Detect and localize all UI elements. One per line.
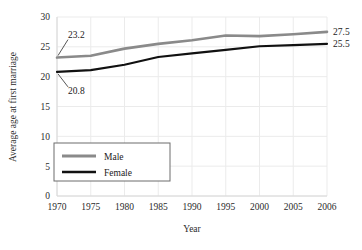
y-tick-label: 10 (41, 132, 51, 142)
x-axis-tick-labels: 197019751980198519901995200020052006 (48, 202, 337, 212)
y-tick-label: 20 (41, 72, 51, 82)
chart-legend[interactable]: MaleFemale (54, 143, 170, 181)
y-tick-label: 15 (41, 102, 51, 112)
x-tick-label: 2005 (284, 202, 303, 212)
male-end-label: 27.5 (333, 27, 350, 37)
x-tick-label: 1985 (149, 202, 168, 212)
legend-label-female: Female (104, 168, 132, 178)
y-tick-label: 0 (45, 191, 50, 201)
x-tick-label: 1975 (81, 202, 100, 212)
female-end-label: 25.5 (333, 39, 350, 49)
y-axis-title: Average age at first marriage (8, 52, 18, 162)
male-start-label: 23.2 (68, 30, 85, 40)
legend-label-male: Male (104, 152, 124, 162)
x-tick-label: 1980 (115, 202, 134, 212)
x-tick-label: 1970 (48, 202, 67, 212)
female-start-label: 20.8 (68, 86, 85, 96)
y-tick-label: 30 (41, 12, 51, 22)
x-tick-label: 1990 (183, 202, 202, 212)
x-tick-label: 2000 (250, 202, 269, 212)
x-tick-label: 1995 (216, 202, 235, 212)
x-tick-label: 2006 (318, 202, 337, 212)
y-tick-label: 25 (41, 42, 51, 52)
chart-container: 051015202530 197019751980198519901995200… (0, 0, 362, 250)
y-tick-label: 5 (45, 162, 50, 172)
y-axis-tick-labels: 051015202530 (41, 12, 51, 201)
line-chart: 051015202530 197019751980198519901995200… (0, 0, 362, 250)
x-axis-title: Year (183, 224, 201, 234)
